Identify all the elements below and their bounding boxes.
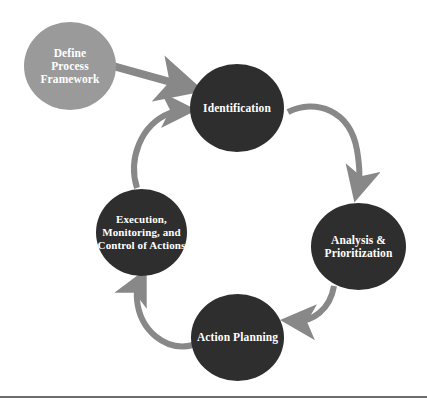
node-label: Identification (203, 102, 271, 115)
node-execution-monitoring-control: Execution, Monitoring, and Control of Ac… (96, 189, 187, 276)
node-label: Execution, Monitoring, and Control of Ac… (98, 213, 186, 252)
node-identification: Identification (190, 64, 284, 152)
node-label: Analysis & Prioritization (325, 234, 393, 260)
node-define-process-framework: Define Process Framework (24, 22, 116, 110)
arrow-identification-to-analysis (288, 106, 359, 188)
arrow-analysis-to-action-planning (295, 286, 334, 321)
arrow-define-to-identification (113, 66, 185, 86)
node-action-planning: Action Planning (191, 294, 284, 381)
arrow-action-planning-to-execution (137, 282, 193, 346)
node-label: Define Process Framework (40, 47, 99, 86)
node-analysis-prioritization: Analysis & Prioritization (311, 203, 406, 290)
arrow-execution-to-identification (134, 110, 182, 188)
bottom-rule (0, 396, 427, 398)
node-label: Action Planning (197, 331, 278, 344)
